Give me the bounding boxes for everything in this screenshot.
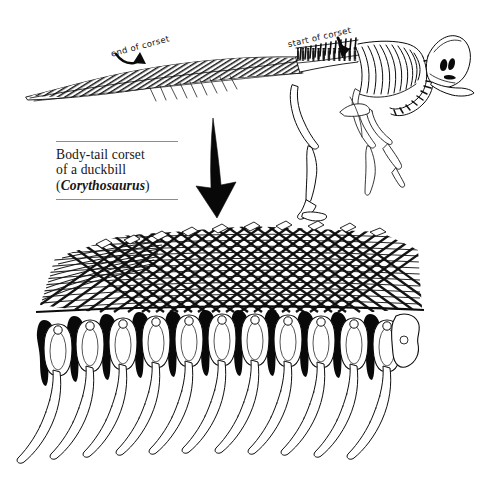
- magnify-arrow: [196, 118, 236, 218]
- caption-rule-bottom: [56, 199, 178, 200]
- genus-name: Corythosaurus: [61, 178, 145, 193]
- ossified-tendon-lattice-tail: [26, 57, 302, 100]
- caption-line-2: of a duckbill: [56, 162, 178, 177]
- caption-line-1: Body-tail corset: [56, 147, 178, 162]
- skull-with-crest: [426, 36, 474, 96]
- hind-limb-near: [290, 85, 326, 221]
- figure-caption: Body-tail corset of a duckbill (Corythos…: [56, 141, 178, 200]
- corset-detail-enlargement: [17, 221, 458, 463]
- ribcage: [356, 45, 420, 97]
- terminal-vertebra: [391, 314, 419, 367]
- genus-paren-close: ): [145, 178, 150, 193]
- caption-text: Body-tail corset of a duckbill (Corythos…: [56, 142, 178, 195]
- illustration-canvas: [0, 0, 483, 480]
- figure-root: Body-tail corset of a duckbill (Corythos…: [0, 0, 483, 480]
- caption-line-genus: (Corythosaurus): [56, 178, 178, 193]
- tail-vertebrae: [26, 57, 303, 101]
